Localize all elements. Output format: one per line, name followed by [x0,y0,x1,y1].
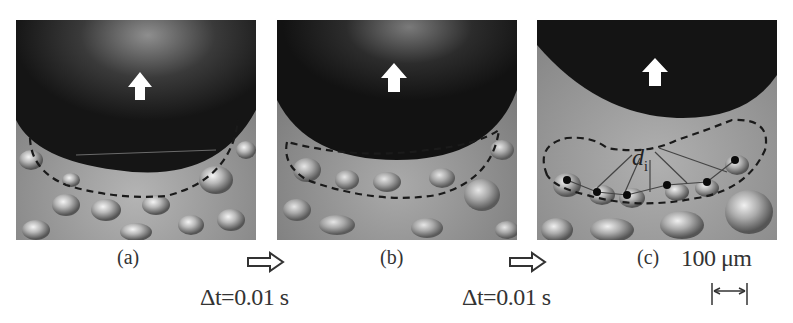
panel-b-image [277,20,517,240]
panel-a-image [16,20,256,240]
hollow-right-arrow-icon [508,251,548,273]
time-interval-label-1: Δt=0.01 s [200,285,288,309]
double-headed-arrow-icon [710,281,750,307]
panel-b-label: (b) [380,247,403,267]
time-interval-label-2: Δt=0.01 s [462,285,550,309]
hollow-right-arrow-icon [246,251,286,273]
panel-c-label: (c) [637,247,659,267]
panel-c-image: di [537,20,777,240]
scale-bar-label: 100 μm [681,246,752,270]
panel-a-label: (a) [117,247,139,267]
